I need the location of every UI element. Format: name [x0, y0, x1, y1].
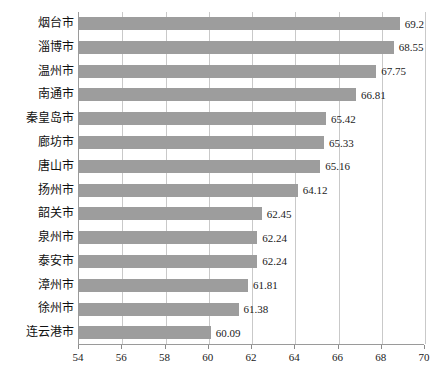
bar	[79, 160, 320, 173]
x-tick-mark	[294, 345, 295, 349]
bar-row: 61.38	[79, 297, 424, 320]
category-label: 连云港市	[0, 321, 74, 344]
bar-value-label: 65.42	[331, 113, 356, 125]
bar-value-label: 62.24	[262, 255, 287, 267]
bar	[79, 41, 394, 54]
bar	[79, 65, 376, 78]
bar	[79, 112, 326, 125]
bar-value-label: 65.16	[325, 160, 350, 172]
category-label: 秦皇岛市	[0, 107, 74, 130]
bar-row: 62.24	[79, 250, 424, 273]
x-tick-label: 58	[150, 351, 180, 363]
x-tick-mark	[121, 345, 122, 349]
x-tick-mark	[338, 345, 339, 349]
bar	[79, 303, 239, 316]
category-label: 韶关市	[0, 202, 74, 225]
bar-value-label: 69.2	[405, 18, 424, 30]
x-tick-label: 70	[409, 351, 439, 363]
bar-row: 65.33	[79, 131, 424, 154]
category-label: 泰安市	[0, 250, 74, 273]
gridline	[425, 12, 426, 344]
x-tick-mark	[424, 345, 425, 349]
bar-value-label: 62.45	[267, 208, 292, 220]
category-label: 烟台市	[0, 12, 74, 35]
bar	[79, 136, 324, 149]
x-tick-mark	[165, 345, 166, 349]
bar-value-label: 68.55	[399, 41, 424, 53]
category-label: 廊坊市	[0, 131, 74, 154]
bar	[79, 207, 262, 220]
x-tick-mark	[78, 345, 79, 349]
bar-value-label: 60.09	[216, 327, 241, 339]
bar-row: 61.81	[79, 274, 424, 297]
bar-row: 65.16	[79, 155, 424, 178]
bar-value-label: 62.24	[262, 232, 287, 244]
x-tick-label: 56	[106, 351, 136, 363]
category-label: 唐山市	[0, 155, 74, 178]
x-tick-label: 62	[236, 351, 266, 363]
bar-chart: 69.268.5567.7566.8165.4265.3365.1664.126…	[0, 0, 440, 384]
bar-row: 60.09	[79, 321, 424, 344]
bar-value-label: 65.33	[329, 137, 354, 149]
bar	[79, 326, 211, 339]
x-tick-label: 68	[366, 351, 396, 363]
bar-value-label: 61.81	[253, 279, 278, 291]
bar-row: 69.2	[79, 12, 424, 35]
x-tick-mark	[208, 345, 209, 349]
bar-row: 62.45	[79, 202, 424, 225]
bar-value-label: 64.12	[303, 184, 328, 196]
bar-value-label: 61.38	[244, 303, 269, 315]
category-label: 徐州市	[0, 297, 74, 320]
bar-row: 66.81	[79, 83, 424, 106]
bar	[79, 17, 400, 30]
x-tick-mark	[251, 345, 252, 349]
bar	[79, 184, 298, 197]
bar-row: 64.12	[79, 179, 424, 202]
bar	[79, 231, 257, 244]
bar	[79, 255, 257, 268]
category-label: 扬州市	[0, 179, 74, 202]
bar-row: 65.42	[79, 107, 424, 130]
plot-area: 69.268.5567.7566.8165.4265.3365.1664.126…	[78, 12, 424, 345]
bar	[79, 279, 248, 292]
x-tick-label: 66	[323, 351, 353, 363]
category-label: 淄博市	[0, 36, 74, 59]
category-label: 南通市	[0, 83, 74, 106]
bar-row: 67.75	[79, 60, 424, 83]
bar-row: 68.55	[79, 36, 424, 59]
x-tick-label: 60	[193, 351, 223, 363]
bar-row: 62.24	[79, 226, 424, 249]
figure-caption	[0, 372, 440, 384]
bar	[79, 88, 356, 101]
category-label: 泉州市	[0, 226, 74, 249]
category-label: 漳州市	[0, 274, 74, 297]
bar-value-label: 66.81	[361, 89, 386, 101]
x-tick-label: 54	[63, 351, 93, 363]
bar-value-label: 67.75	[381, 65, 406, 77]
x-tick-label: 64	[279, 351, 309, 363]
category-label: 温州市	[0, 60, 74, 83]
x-tick-mark	[381, 345, 382, 349]
